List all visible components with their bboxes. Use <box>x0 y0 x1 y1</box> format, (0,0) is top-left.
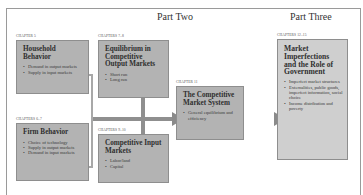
market-system-chapter-label: CHAPTER 11 <box>176 80 198 84</box>
imperfections-title: Market Imperfections and the Role of Gov… <box>284 45 343 76</box>
market-system-bullet: General equilibrium and efficiency <box>183 110 239 121</box>
markets-vertical-connector <box>141 92 145 138</box>
imperfections-box: Market Imperfections and the Role of Gov… <box>277 39 348 160</box>
firm-chapter-label: CHAPTERS 6–7 <box>16 117 42 121</box>
household-bullet: Supply in input markets <box>23 70 84 75</box>
output-markets-title: Equilibrium in Competitive Output Market… <box>105 46 164 69</box>
input-markets-title: Competitive Input Markets <box>105 140 164 155</box>
bracket-vertical-connector <box>91 74 93 168</box>
output-markets-box: Equilibrium in Competitive Output Market… <box>98 40 169 98</box>
input-markets-chapter-label: CHAPTERS 9–10 <box>98 128 126 132</box>
household-title: Household Behavior <box>23 46 84 61</box>
imperfections-chapter-label: CHAPTERS 12–15 <box>277 33 307 37</box>
part-three-heading: Part Three <box>290 11 332 22</box>
input-markets-bullet: Capital <box>105 164 164 169</box>
output-markets-bullet: Long run <box>105 77 164 82</box>
imperfections-bullet: Externalities, public goods, imperfect i… <box>284 85 343 101</box>
household-chapter-label: CHAPTER 5 <box>16 34 36 38</box>
input-markets-box: Competitive Input Markets Labor/land Cap… <box>98 134 169 183</box>
firm-title: Firm Behavior <box>23 129 84 137</box>
imperfections-bullet: Income distribution and poverty <box>284 101 343 112</box>
firm-bullet: Demand in input markets <box>23 150 84 155</box>
market-system-box: The Competitive Market System General eq… <box>176 86 244 140</box>
household-behavior-box: Household Behavior Demand in output mark… <box>16 40 89 94</box>
firm-behavior-box: Firm Behavior Choice of technology Suppl… <box>16 123 89 181</box>
output-markets-chapter-label: CHAPTERS 7–8 <box>98 34 124 38</box>
part-two-heading: Part Two <box>157 11 193 22</box>
market-system-title: The Competitive Market System <box>183 92 239 107</box>
